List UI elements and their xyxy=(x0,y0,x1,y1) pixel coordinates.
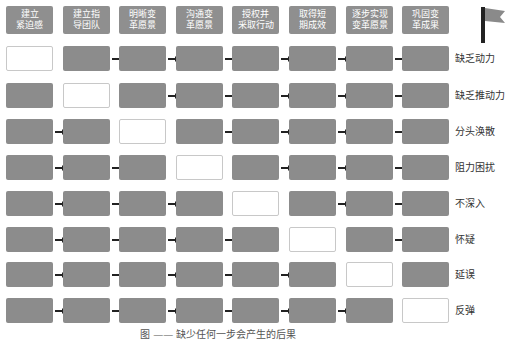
step-box xyxy=(6,298,53,323)
arrow-right-icon xyxy=(168,203,176,205)
step-box xyxy=(119,298,166,323)
missing-step-box xyxy=(63,83,110,108)
consequence-label: 阻力困扰 xyxy=(455,162,495,174)
step-box xyxy=(346,119,393,144)
arrow-right-icon xyxy=(338,131,346,133)
step-box xyxy=(119,191,166,216)
step-box xyxy=(63,46,110,71)
step-box xyxy=(6,83,53,108)
step-header: 明晰变 革愿景 xyxy=(119,6,166,34)
arrow-right-icon xyxy=(55,274,63,276)
arrow-right-icon xyxy=(55,310,63,312)
missing-step-box xyxy=(402,298,449,323)
step-box xyxy=(176,262,223,287)
step-box xyxy=(232,155,279,180)
step-box xyxy=(232,227,279,252)
arrow-right-icon xyxy=(281,274,289,276)
step-box xyxy=(63,191,110,216)
step-box xyxy=(176,191,223,216)
step-box xyxy=(346,191,393,216)
step-box xyxy=(289,83,336,108)
step-box xyxy=(119,227,166,252)
arrow-right-icon xyxy=(168,58,176,60)
arrow-right-icon xyxy=(168,274,176,276)
step-box xyxy=(289,119,336,144)
step-box xyxy=(119,262,166,287)
consequence-label: 分头涣散 xyxy=(455,126,495,138)
step-box xyxy=(289,262,336,287)
step-box xyxy=(346,227,393,252)
arrow-right-icon xyxy=(338,203,346,205)
step-box xyxy=(402,262,449,287)
step-box xyxy=(6,119,53,144)
figure-caption: 图 —— 缺少任何一步会产生的后果 xyxy=(140,326,296,341)
missing-step-box xyxy=(289,227,336,252)
step-box xyxy=(6,191,53,216)
step-box xyxy=(6,262,53,287)
consequence-label: 怀疑 xyxy=(455,234,475,246)
step-box xyxy=(232,119,279,144)
step-box xyxy=(346,46,393,71)
step-box xyxy=(402,119,449,144)
step-box xyxy=(63,155,110,180)
step-header: 逐步实现 变革愿景 xyxy=(346,6,393,34)
step-box xyxy=(402,46,449,71)
step-box xyxy=(232,83,279,108)
step-box xyxy=(119,46,166,71)
consequence-label: 缺乏动力 xyxy=(455,53,495,65)
step-box xyxy=(6,155,53,180)
consequence-label: 缺乏推动力 xyxy=(455,90,505,102)
step-box xyxy=(402,83,449,108)
missing-step-box xyxy=(232,191,279,216)
step-box xyxy=(63,298,110,323)
arrow-right-icon xyxy=(338,58,346,60)
step-header: 取得短 期成效 xyxy=(289,6,336,34)
step-box xyxy=(346,155,393,180)
consequence-label: 不深入 xyxy=(455,198,485,210)
step-box xyxy=(176,46,223,71)
arrow-right-icon xyxy=(338,95,346,97)
step-box xyxy=(119,83,166,108)
arrow-right-icon xyxy=(55,167,63,169)
step-box xyxy=(119,155,166,180)
step-header: 沟通变 革愿景 xyxy=(176,6,223,34)
arrow-right-icon xyxy=(168,310,176,312)
step-header: 授权并 采取行动 xyxy=(232,6,279,34)
arrow-right-icon xyxy=(168,239,176,241)
step-box xyxy=(176,119,223,144)
step-box xyxy=(289,155,336,180)
arrow-right-icon xyxy=(55,203,63,205)
step-box xyxy=(289,298,336,323)
missing-step-box xyxy=(346,262,393,287)
step-box xyxy=(289,46,336,71)
missing-step-box xyxy=(176,155,223,180)
arrow-right-icon xyxy=(55,239,63,241)
step-box xyxy=(176,227,223,252)
missing-step-box xyxy=(119,119,166,144)
step-box xyxy=(346,83,393,108)
arrow-right-icon xyxy=(281,131,289,133)
step-box xyxy=(6,227,53,252)
step-box xyxy=(232,262,279,287)
arrow-right-icon xyxy=(168,95,176,97)
step-box xyxy=(63,227,110,252)
arrow-right-icon xyxy=(55,131,63,133)
arrow-right-icon xyxy=(281,95,289,97)
arrow-right-icon xyxy=(281,167,289,169)
step-box xyxy=(402,155,449,180)
arrow-right-icon xyxy=(338,167,346,169)
flag-icon xyxy=(478,5,508,45)
consequence-label: 延误 xyxy=(455,269,475,281)
step-header: 建立指 导团队 xyxy=(63,6,110,34)
arrow-right-icon xyxy=(281,58,289,60)
arrow-right-icon xyxy=(281,310,289,312)
step-box xyxy=(176,298,223,323)
step-box xyxy=(346,298,393,323)
step-box xyxy=(63,119,110,144)
missing-step-box xyxy=(6,46,53,71)
consequence-label: 反弹 xyxy=(455,305,475,317)
step-box xyxy=(232,46,279,71)
step-box xyxy=(176,83,223,108)
arrow-right-icon xyxy=(338,310,346,312)
step-box xyxy=(402,191,449,216)
